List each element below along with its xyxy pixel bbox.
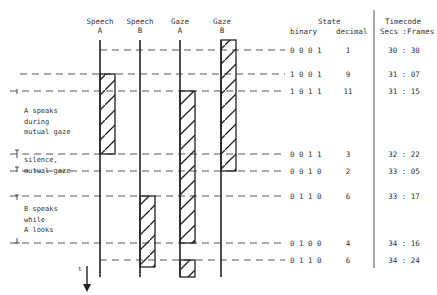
row-timecode: 30 : 30 [380,46,428,55]
row-binary: 0 0 1 1 [290,150,322,159]
row-decimal: 6 [336,256,360,265]
row-timecode: 31 : 15 [380,87,428,96]
row-binary: 1 0 1 1 [290,87,322,96]
row-decimal: 9 [336,70,360,79]
row-decimal: 2 [336,167,360,176]
row-binary: 0 1 1 0 [290,256,322,265]
row-timecode: 33 : 05 [380,167,428,176]
row-timecode: 34 : 24 [380,256,428,265]
time-arrow-icon [83,266,91,292]
row-decimal: 6 [336,192,360,201]
row-binary: 0 0 0 1 [290,46,322,55]
row-binary: 1 0 0 1 [290,70,322,79]
row-binary: 0 0 1 0 [290,167,322,176]
activity-bars [100,40,236,277]
row-timecode: 31 : 07 [380,70,428,79]
timeline-diagram [0,0,437,295]
row-decimal: 1 [336,46,360,55]
row-binary: 0 1 1 0 [290,192,322,201]
row-timecode: 33 : 17 [380,192,428,201]
row-binary: 0 1 0 0 [290,239,322,248]
row-decimal: 11 [336,87,360,96]
row-decimal: 3 [336,150,360,159]
row-timecode: 32 : 22 [380,150,428,159]
note-silence: silence, mutual gaze [24,155,70,176]
row-decimal: 4 [336,239,360,248]
column-lines [100,40,221,277]
row-timecode: 34 : 16 [380,239,428,248]
annotation-markers [15,89,20,243]
time-axis-label: t [78,264,82,273]
note-a-speaks: A speaks during mutual gaze [24,106,70,138]
note-b-speaks: B speaks while A looks [24,204,58,236]
